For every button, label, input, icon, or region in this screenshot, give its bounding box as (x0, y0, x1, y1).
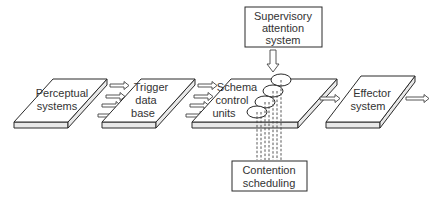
slab-front-face (102, 122, 156, 128)
slab-front-face (326, 122, 380, 128)
supervisory-label-1: Supervisory (254, 10, 313, 22)
slab-front-face (14, 122, 68, 128)
supervisory-label-3: system (266, 34, 301, 46)
schema-label-2: control (215, 94, 248, 106)
node-supervisory-attention-system: Supervisory attention system (245, 7, 322, 47)
arrow-icon (198, 82, 217, 90)
effector-label-2: system (351, 100, 386, 112)
node-perceptual-systems: Perceptual systems (14, 79, 107, 128)
arrow-down-icon (267, 50, 279, 72)
output-arrow-icon (406, 95, 429, 103)
effector-label-1: Effector (353, 87, 391, 99)
contention-label-2: scheduling (243, 177, 296, 189)
contention-label-1: Contention (242, 164, 295, 176)
perceptual-label-1: Perceptual (36, 87, 89, 99)
trigger-label-1: Trigger (134, 81, 169, 93)
schema-label-1: Schema (217, 81, 258, 93)
node-contention-scheduling: Contention scheduling (232, 161, 307, 191)
arrow-icon (110, 82, 129, 90)
trigger-label-2: data (135, 94, 157, 106)
schema-label-3: units (212, 107, 236, 119)
arrow-icon (194, 93, 213, 101)
trigger-label-3: base (131, 107, 155, 119)
diagram-canvas: Perceptual systems Trigger data base Sch… (0, 0, 443, 200)
node-effector-system: Effector system (326, 76, 415, 128)
node-schema-control-units: Schema control units (192, 74, 337, 128)
perceptual-label-2: systems (37, 100, 78, 112)
slab-front-face (192, 122, 298, 128)
supervisory-label-2: attention (262, 22, 304, 34)
